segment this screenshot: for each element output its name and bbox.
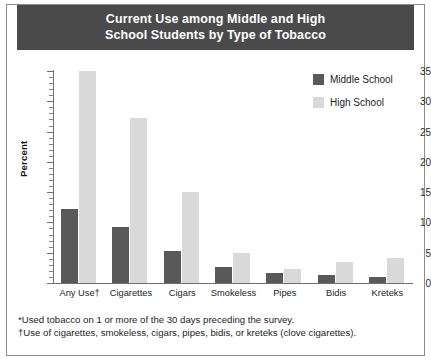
bar-high-school — [233, 253, 250, 283]
x-tick-label: Kreteks — [372, 288, 404, 298]
y-tick-major — [47, 162, 53, 163]
y-tick-minor — [49, 204, 53, 205]
x-axis-line — [53, 283, 413, 284]
bar-high-school — [336, 262, 353, 283]
bar-group — [208, 71, 259, 283]
bar-group — [259, 71, 310, 283]
y-tick-minor — [49, 83, 53, 84]
y-tick-minor — [49, 277, 53, 278]
y-tick-major — [47, 71, 53, 72]
bar-middle-school — [112, 227, 129, 283]
y-tick-minor — [49, 150, 53, 151]
y-tick-major — [47, 283, 53, 284]
y-tick-minor — [49, 271, 53, 272]
y-tick-minor — [49, 138, 53, 139]
y-tick-minor — [49, 156, 53, 157]
bar-high-school — [387, 258, 404, 283]
x-tick-label: Cigarettes — [110, 288, 152, 298]
x-tick-label: Pipes — [273, 288, 296, 298]
high-school-swatch-icon — [313, 97, 324, 108]
y-tick-minor — [49, 95, 53, 96]
y-tick-minor — [49, 210, 53, 211]
y-tick-major — [47, 132, 53, 133]
y-tick-major — [47, 253, 53, 254]
chart-figure: Current Use among Middle and High School… — [0, 0, 431, 364]
bar-middle-school — [164, 251, 181, 283]
bar-high-school — [284, 269, 301, 283]
bar-middle-school — [318, 275, 335, 283]
bar-middle-school — [61, 209, 78, 283]
y-tick-major — [47, 222, 53, 223]
footnote-dagger: †Use of cigarettes, smokeless, cigars, p… — [18, 326, 418, 339]
bar-middle-school — [266, 273, 283, 283]
y-tick-minor — [49, 144, 53, 145]
footnotes: *Used tobacco on 1 or more of the 30 day… — [18, 313, 418, 339]
bar-high-school — [182, 192, 199, 283]
y-tick-minor — [49, 126, 53, 127]
y-tick-major — [47, 101, 53, 102]
bar-group — [157, 71, 208, 283]
y-tick-minor — [49, 235, 53, 236]
y-tick-minor — [49, 180, 53, 181]
chart-legend: Middle School High School — [313, 74, 393, 120]
y-tick-minor — [49, 216, 53, 217]
y-tick-minor — [49, 77, 53, 78]
bar-high-school — [79, 71, 96, 283]
y-tick-minor — [49, 174, 53, 175]
middle-school-swatch-icon — [313, 74, 324, 85]
y-tick-minor — [49, 186, 53, 187]
legend-item-middle-school: Middle School — [313, 74, 393, 85]
bar-group — [54, 71, 105, 283]
y-tick-minor — [49, 228, 53, 229]
x-tick-label: Bidis — [326, 288, 346, 298]
x-tick-label: Any Use† — [59, 288, 99, 298]
y-tick-minor — [49, 247, 53, 248]
legend-item-high-school: High School — [313, 97, 393, 108]
bar-group — [105, 71, 156, 283]
x-tick-label: Cigars — [169, 288, 196, 298]
y-tick-minor — [49, 113, 53, 114]
bar-middle-school — [215, 267, 232, 283]
x-tick-label: Smokeless — [211, 288, 256, 298]
bar-high-school — [130, 118, 147, 283]
y-tick-minor — [49, 107, 53, 108]
y-tick-minor — [49, 265, 53, 266]
footnote-asterisk: *Used tobacco on 1 or more of the 30 day… — [18, 313, 418, 326]
y-tick-major — [47, 192, 53, 193]
y-tick-minor — [49, 241, 53, 242]
legend-label-high-school: High School — [330, 97, 384, 108]
legend-label-middle-school: Middle School — [330, 74, 393, 85]
bar-middle-school — [369, 277, 386, 283]
plot-area: 05101520253035 Percent Any Use†Cigarette… — [0, 0, 431, 364]
y-tick-minor — [49, 89, 53, 90]
y-tick-minor — [49, 259, 53, 260]
y-tick-minor — [49, 198, 53, 199]
y-tick-minor — [49, 119, 53, 120]
y-axis-label: Percent — [18, 141, 29, 177]
y-tick-minor — [49, 168, 53, 169]
